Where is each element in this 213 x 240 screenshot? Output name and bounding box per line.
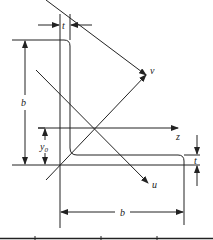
v-axis (46, 0, 146, 75)
label-z: z (175, 131, 180, 142)
angle-section-diagram: t b v z y0 u t b (0, 0, 213, 240)
label-v: v (150, 65, 155, 76)
label-b-bottom: b (120, 207, 125, 218)
label-u: u (152, 179, 157, 190)
label-b-left: b (21, 97, 26, 108)
label-y0-sub: 0 (44, 146, 48, 154)
label-t-top: t (62, 20, 65, 31)
label-y0: y0 (39, 141, 48, 154)
u-axis (36, 70, 148, 183)
label-t-right: t (194, 155, 197, 166)
angle-profile (12, 14, 200, 228)
